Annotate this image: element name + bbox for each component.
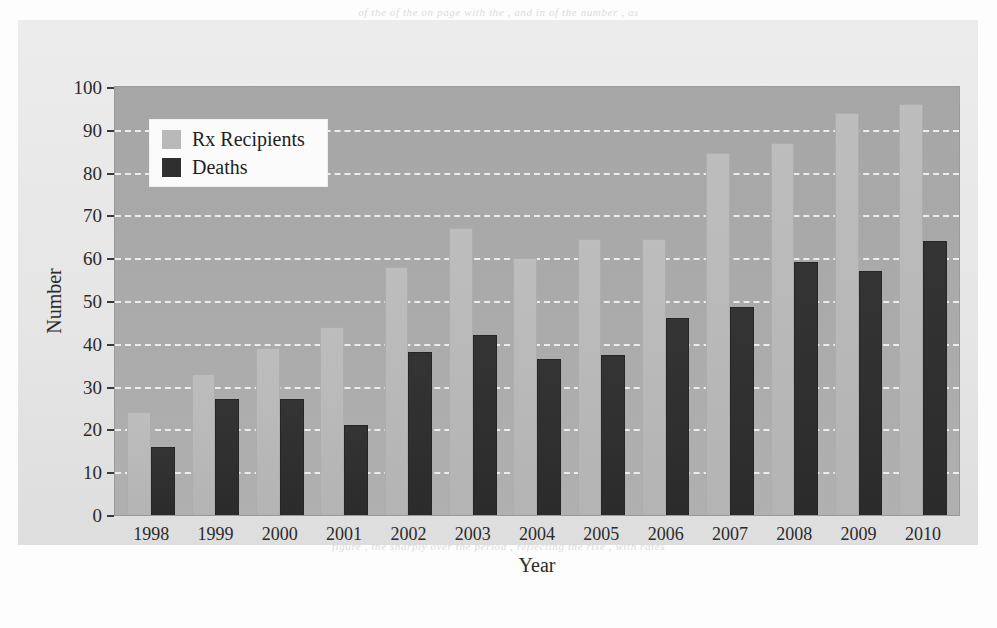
bar-group: 2005 bbox=[569, 87, 633, 515]
bar-group: 2010 bbox=[891, 87, 955, 515]
bar-deaths bbox=[473, 335, 497, 515]
y-tick-label: 30 bbox=[83, 377, 102, 396]
bar-group: 2003 bbox=[441, 87, 505, 515]
bar-group: 2009 bbox=[826, 87, 890, 515]
y-tick-mark bbox=[107, 387, 114, 389]
y-tick-label: 90 bbox=[83, 120, 102, 139]
bar-rx-recipients bbox=[127, 412, 151, 515]
bar-rx-recipients bbox=[449, 228, 473, 515]
bar-deaths bbox=[601, 355, 625, 516]
bar-deaths bbox=[666, 318, 690, 515]
scan-bleed-bottom: figure , the sharply over the period , r… bbox=[0, 540, 997, 556]
y-axis-title: Number bbox=[43, 268, 66, 334]
legend-label-deaths: Deaths bbox=[192, 157, 248, 177]
bar-group: 2007 bbox=[698, 87, 762, 515]
bar-rx-recipients bbox=[578, 239, 602, 515]
plot-area: 1009080706050403020100 19981999200020012… bbox=[114, 86, 960, 516]
bar-group: 2006 bbox=[634, 87, 698, 515]
y-tick-mark bbox=[107, 515, 114, 517]
y-tick-label: 0 bbox=[93, 506, 103, 525]
legend-item-deaths: Deaths bbox=[162, 157, 305, 177]
legend-swatch-deaths-icon bbox=[162, 158, 181, 177]
x-axis-title: Year bbox=[114, 554, 960, 577]
bar-group: 2002 bbox=[376, 87, 440, 515]
bar-deaths bbox=[859, 271, 883, 515]
y-tick-label: 20 bbox=[83, 420, 102, 439]
y-tick-label: 10 bbox=[83, 463, 102, 482]
bar-rx-recipients bbox=[899, 104, 923, 515]
y-tick-label: 50 bbox=[83, 292, 102, 311]
y-tick-mark bbox=[107, 215, 114, 217]
y-tick-mark bbox=[107, 344, 114, 346]
y-tick-mark bbox=[107, 301, 114, 303]
bar-deaths bbox=[215, 399, 239, 515]
legend-swatch-rx-icon bbox=[162, 130, 181, 149]
y-tick-mark bbox=[107, 472, 114, 474]
page-canvas: of the of the on page with the , and in … bbox=[0, 0, 997, 628]
y-tick-mark bbox=[107, 130, 114, 132]
bar-deaths bbox=[344, 425, 368, 515]
legend-label-rx-recipients: Rx Recipients bbox=[192, 129, 305, 149]
y-tick-label: 100 bbox=[74, 78, 103, 97]
y-tick-label: 60 bbox=[83, 249, 102, 268]
figure-panel: 1009080706050403020100 19981999200020012… bbox=[18, 20, 978, 545]
y-tick-mark bbox=[107, 258, 114, 260]
bar-rx-recipients bbox=[192, 374, 216, 515]
bar-group: 2004 bbox=[505, 87, 569, 515]
bar-deaths bbox=[280, 399, 304, 515]
bar-rx-recipients bbox=[513, 258, 537, 515]
bar-deaths bbox=[730, 307, 754, 515]
bar-deaths bbox=[923, 241, 947, 515]
bar-rx-recipients bbox=[385, 267, 409, 515]
bar-rx-recipients bbox=[771, 143, 795, 515]
legend-item-rx-recipients: Rx Recipients bbox=[162, 129, 305, 149]
bar-group: 2008 bbox=[762, 87, 826, 515]
bar-deaths bbox=[151, 447, 175, 515]
y-tick-label: 40 bbox=[83, 334, 102, 353]
bar-deaths bbox=[537, 359, 561, 515]
y-tick-mark bbox=[107, 87, 114, 89]
y-tick-mark bbox=[107, 429, 114, 431]
bar-deaths bbox=[794, 262, 818, 515]
y-tick-mark bbox=[107, 173, 114, 175]
bar-rx-recipients bbox=[256, 348, 280, 515]
chart-legend: Rx Recipients Deaths bbox=[150, 120, 327, 186]
bar-rx-recipients bbox=[706, 153, 730, 515]
bar-deaths bbox=[408, 352, 432, 515]
bar-rx-recipients bbox=[320, 327, 344, 515]
bar-rx-recipients bbox=[835, 113, 859, 515]
y-tick-label: 80 bbox=[83, 163, 102, 182]
bar-rx-recipients bbox=[642, 239, 666, 515]
y-tick-label: 70 bbox=[83, 206, 102, 225]
